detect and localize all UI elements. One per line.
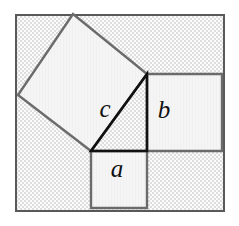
label-leg-b: b (158, 96, 171, 123)
pythagorean-theorem-figure: c b a (0, 0, 239, 226)
figure-canvas: c b a (0, 0, 239, 226)
label-hypotenuse-c: c (99, 95, 110, 122)
label-leg-a: a (111, 155, 124, 182)
